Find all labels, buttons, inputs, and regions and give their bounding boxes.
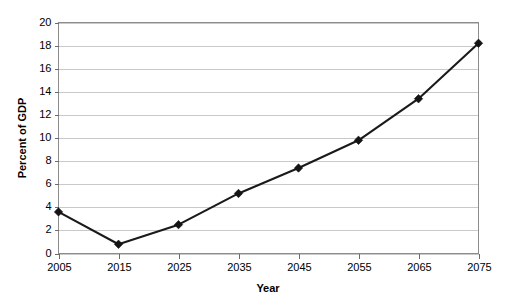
y-tick-label-6: 6 [45,177,51,189]
x-tick-label-2015: 2015 [107,261,131,273]
chart-container: 02468101214161820 2005201520252035204520… [0,0,508,306]
y-tick-label-0: 0 [45,247,51,259]
y-tick-label-12: 12 [39,108,51,120]
x-tick-label-2075: 2075 [467,261,491,273]
y-tick-label-10: 10 [39,131,51,143]
y-tick-label-8: 8 [45,154,51,166]
x-tick-label-2065: 2065 [407,261,431,273]
chart-background [0,0,508,306]
x-tick-label-2035: 2035 [227,261,251,273]
line-chart: 02468101214161820 2005201520252035204520… [0,0,508,306]
y-tick-label-18: 18 [39,39,51,51]
y-tick-label-16: 16 [39,62,51,74]
x-tick-label-2045: 2045 [287,261,311,273]
y-tick-label-4: 4 [45,200,51,212]
y-tick-label-20: 20 [39,16,51,28]
x-tick-label-2005: 2005 [47,261,71,273]
x-axis-title: Year [256,282,280,294]
x-tick-label-2055: 2055 [347,261,371,273]
y-axis-title: Percent of GDP [16,98,28,179]
x-tick-label-2025: 2025 [167,261,191,273]
y-tick-label-2: 2 [45,223,51,235]
y-tick-label-14: 14 [39,85,51,97]
